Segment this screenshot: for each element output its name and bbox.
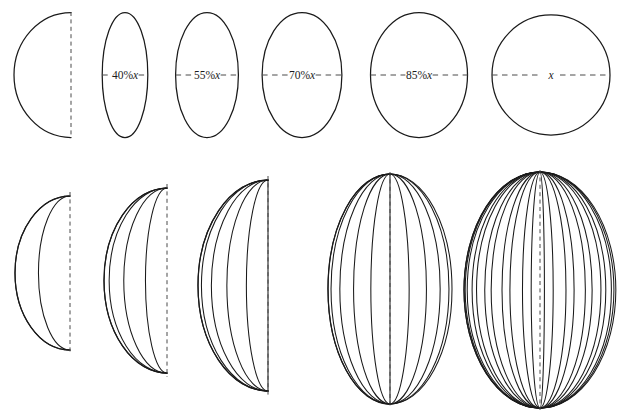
figure-root: 40%x55%x70%x85%xx xyxy=(0,0,626,417)
revolution-panel-0 xyxy=(15,192,70,354)
swept-arc xyxy=(510,172,540,408)
cross-section-panel-0 xyxy=(14,12,71,138)
swept-arc xyxy=(354,174,390,404)
swept-arc xyxy=(531,172,540,408)
swept-arc xyxy=(38,196,70,350)
dimension-label-1: 40%x xyxy=(112,68,139,80)
dimension-label-4: 85%x xyxy=(406,68,433,80)
leading-half-ellipse-outline xyxy=(15,196,70,350)
cross-section-panel-5: x xyxy=(492,15,610,135)
swept-arc xyxy=(540,172,616,408)
label-percent-part: 85% xyxy=(406,68,428,80)
swept-arc xyxy=(390,174,452,404)
swept-arc xyxy=(371,174,390,404)
rotation-figure-canvas: 40%x55%x70%x85%xx xyxy=(0,0,626,417)
label-variable-part: x xyxy=(547,68,554,80)
leading-half-ellipse-outline xyxy=(104,188,167,373)
cross-section-panel-2: 55%x xyxy=(176,13,239,138)
swept-arc xyxy=(390,174,409,404)
swept-arc xyxy=(198,180,268,391)
swept-arc xyxy=(104,188,167,373)
half-ellipse-outline xyxy=(14,13,71,138)
swept-arc xyxy=(540,172,585,408)
swept-arc xyxy=(145,188,167,373)
label-variable-part: x xyxy=(214,68,221,80)
swept-arc xyxy=(472,172,540,408)
swept-arc xyxy=(502,172,540,408)
label-variable-part: x xyxy=(309,68,316,80)
bottom-row-revolution-sweeps xyxy=(15,170,616,410)
leading-half-ellipse-outline xyxy=(198,180,268,391)
swept-arc xyxy=(491,172,540,408)
cross-section-panel-3: 70%x xyxy=(262,13,342,138)
revolution-panel-4 xyxy=(464,170,616,410)
cross-section-panel-1: 40%x xyxy=(102,13,148,138)
dimension-label-3: 70%x xyxy=(289,68,316,80)
swept-arc xyxy=(540,172,553,408)
dimension-label-5: x xyxy=(547,68,554,80)
swept-arc xyxy=(246,180,268,391)
swept-arc xyxy=(109,188,167,373)
label-variable-part: x xyxy=(132,68,139,80)
top-row-cross-sections: 40%x55%x70%x85%xx xyxy=(14,12,610,138)
revolution-panel-2 xyxy=(198,176,268,395)
swept-arc xyxy=(540,172,574,408)
revolution-panel-1 xyxy=(104,184,167,377)
revolution-panel-3 xyxy=(328,172,452,406)
label-percent-part: 70% xyxy=(289,68,311,80)
label-variable-part: x xyxy=(426,68,433,80)
swept-arc xyxy=(227,180,268,391)
swept-arc xyxy=(390,174,426,404)
label-percent-part: 55% xyxy=(194,68,216,80)
leading-half-ellipse-outline xyxy=(328,174,390,404)
swept-arc xyxy=(328,174,390,404)
swept-arc xyxy=(15,196,70,350)
swept-arc xyxy=(467,172,540,408)
dimension-label-2: 55%x xyxy=(194,68,221,80)
swept-arc xyxy=(540,172,544,408)
label-percent-part: 40% xyxy=(112,68,134,80)
cross-section-panel-4: 85%x xyxy=(371,13,468,138)
